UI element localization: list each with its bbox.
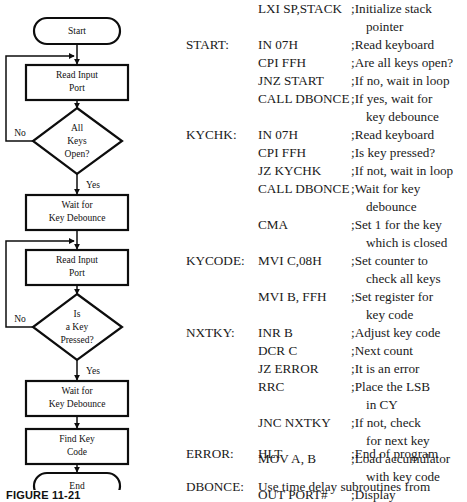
code-line: JNZ START ;If no, wait in loop <box>186 72 467 90</box>
code-label: KYCHK: <box>186 126 258 144</box>
code-comment: ;It is an error <box>351 360 419 378</box>
code-line: START: IN 07H ;Read keyboard <box>186 36 467 54</box>
code-comment: ;If no, wait in loop <box>351 72 450 90</box>
code-comment: which is closed <box>366 234 447 252</box>
code-comment: ;Set counter to <box>351 252 428 270</box>
node-start-label: Start <box>68 26 86 36</box>
code-instruction: IN 07H <box>258 126 346 144</box>
code-comment: ;Read keyboard <box>351 126 434 144</box>
code-instruction: JNZ START <box>258 72 346 90</box>
code-line: which is closed <box>186 234 467 252</box>
code-instruction: IN 07H <box>258 36 346 54</box>
code-comment: ;If yes, wait for <box>351 90 432 108</box>
code-comment: key debounce <box>366 108 439 126</box>
code-instruction: JNC NXTKY <box>258 414 346 432</box>
edge-label-allkeys-yes: Yes <box>86 180 100 190</box>
code-comment: key code <box>366 306 413 324</box>
code-line: JZ KYCHK ;If not, wait in loop <box>186 162 467 180</box>
code-instruction: LXI SP,STACK <box>258 0 346 18</box>
code-comment: ;Next count <box>351 342 413 360</box>
flowchart-diagram: Start Read Input Port All Keys Open? No … <box>0 0 180 490</box>
code-comment: ;Set 1 for the key <box>351 216 442 234</box>
code-line: check all keys <box>186 270 467 288</box>
node-all-keys-open-label-line2: Keys <box>67 136 87 146</box>
code-line: key debounce <box>186 108 467 126</box>
code-instruction: CMA <box>258 216 346 234</box>
code-comment: in CY <box>366 396 398 414</box>
code-instruction: MVI C,08H <box>258 252 346 270</box>
code-label: NXTKY: <box>186 324 258 342</box>
code-label: ERROR: <box>186 445 258 463</box>
code-comment: debounce <box>366 198 417 216</box>
code-comment: ;End of program <box>351 445 438 463</box>
node-wait-key-debounce-2-label-line1: Wait for <box>61 386 93 396</box>
node-is-key-pressed-label-line1: Is <box>74 309 81 319</box>
node-is-key-pressed-label-line3: Pressed? <box>60 335 93 345</box>
code-comment: ;If not, wait in loop <box>351 162 453 180</box>
node-wait-key-debounce-1-label-line2: Key Debounce <box>49 213 106 223</box>
code-comment: ;Read keyboard <box>351 36 434 54</box>
code-line: NXTKY: INR B ;Adjust key code <box>186 324 467 342</box>
flowchart-panel: Start Read Input Port All Keys Open? No … <box>0 0 180 502</box>
code-instruction: JZ KYCHK <box>258 162 346 180</box>
code-comment: ;Are all keys open? <box>351 54 453 72</box>
code-line: key code <box>186 306 467 324</box>
code-line: in CY <box>186 396 467 414</box>
node-all-keys-open-label-line3: Open? <box>65 149 90 159</box>
code-instruction: RRC <box>258 378 346 396</box>
code-label: KYCODE: <box>186 252 258 270</box>
code-instruction: CPI FFH <box>258 144 346 162</box>
code-line: CMA ;Set 1 for the key <box>186 216 467 234</box>
code-comment: ;Initialize stack <box>351 0 432 18</box>
code-label: DBONCE: <box>186 478 258 496</box>
code-line: debounce <box>186 198 467 216</box>
code-trailing-text: Use time delay subroutines from <box>258 478 430 496</box>
edge-label-allkeys-no: No <box>14 128 26 138</box>
code-comment: ;Place the LSB <box>351 378 430 396</box>
code-line: DCR C ;Next count <box>186 342 467 360</box>
code-instruction: CPI FFH <box>258 54 346 72</box>
code-instruction: MVI B, FFH <box>258 288 346 306</box>
code-comment: ;Adjust key code <box>351 324 440 342</box>
code-line-dbonce: DBONCE: Use time delay subroutines from <box>186 478 467 496</box>
edge-label-keypressed-no: No <box>14 314 26 324</box>
edge-label-keypressed-yes: Yes <box>86 366 100 376</box>
code-line: KYCODE: MVI C,08H ;Set counter to <box>186 252 467 270</box>
code-line: CALL DBONCE ;Wait for key <box>186 180 467 198</box>
code-line: JNC NXTKY ;If not, check <box>186 414 467 432</box>
node-find-key-code-label-line2: Code <box>67 447 87 457</box>
code-line: JZ ERROR ;It is an error <box>186 360 467 378</box>
code-line: RRC ;Place the LSB <box>186 378 467 396</box>
code-comment: ;Set register for <box>351 288 433 306</box>
code-line: KYCHK: IN 07H ;Read keyboard <box>186 126 467 144</box>
node-wait-key-debounce-1-label-line1: Wait for <box>61 200 93 210</box>
code-listing-panel: LXI SP,STACK ;Initialize stack pointer S… <box>186 0 467 502</box>
code-instruction: DCR C <box>258 342 346 360</box>
node-read-input-port-1-label-line1: Read Input <box>56 70 98 80</box>
code-line: CALL DBONCE ;If yes, wait for <box>186 90 467 108</box>
code-instruction: CALL DBONCE <box>258 180 346 198</box>
code-label: START: <box>186 36 258 54</box>
code-comment: ;Wait for key <box>351 180 420 198</box>
code-line: pointer <box>186 18 467 36</box>
code-line: CPI FFH ;Is key pressed? <box>186 144 467 162</box>
node-read-input-port-2-label-line2: Port <box>69 268 85 278</box>
node-all-keys-open-label-line1: All <box>71 123 84 133</box>
node-find-key-code-label-line1: Find Key <box>59 434 95 444</box>
code-instruction: JZ ERROR <box>258 360 346 378</box>
node-read-input-port-2-label-line1: Read Input <box>56 255 98 265</box>
node-read-input-port-1-label-line2: Port <box>69 83 85 93</box>
node-wait-key-debounce-2-label-line2: Key Debounce <box>49 399 106 409</box>
code-comment: pointer <box>366 18 403 36</box>
code-line-error: ERROR: HLT ;End of program <box>186 445 467 463</box>
code-instruction: INR B <box>258 324 346 342</box>
figure-caption: FIGURE 11-21 <box>6 489 81 501</box>
code-line: CPI FFH ;Are all keys open? <box>186 54 467 72</box>
code-comment: ;Is key pressed? <box>351 144 435 162</box>
code-comment: check all keys <box>366 270 441 288</box>
code-comment: ;If not, check <box>351 414 421 432</box>
code-line: LXI SP,STACK ;Initialize stack <box>186 0 467 18</box>
code-instruction: HLT <box>258 445 346 463</box>
code-instruction: CALL DBONCE <box>258 90 346 108</box>
node-is-key-pressed-label-line2: a Key <box>66 322 89 332</box>
